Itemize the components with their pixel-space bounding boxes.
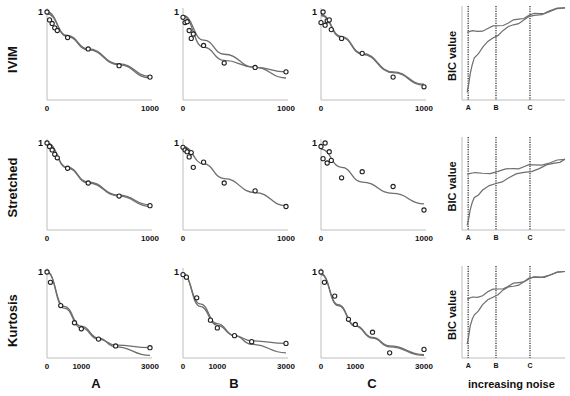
- data-point: [284, 204, 288, 208]
- y-tick-label: 1: [312, 267, 317, 277]
- panel-kurtosis-a: 1010003000: [38, 267, 159, 371]
- data-point: [66, 166, 70, 170]
- data-point: [222, 61, 226, 65]
- y-axis-label-bic: BIC value: [446, 31, 458, 81]
- fit-curve: [321, 15, 424, 85]
- x-tick-label: 1000: [208, 362, 226, 371]
- data-point: [79, 327, 83, 331]
- data-point: [250, 340, 254, 344]
- data-point: [321, 157, 325, 161]
- panel-stretched-a: 101000: [38, 138, 159, 243]
- data-point: [388, 351, 392, 355]
- figure: 1010001010001010001010001010001010001010…: [0, 0, 570, 396]
- x-tick-label: 3000: [415, 362, 433, 371]
- panel-kurtosis-b: 1010003000: [174, 267, 295, 371]
- data-point: [284, 70, 288, 74]
- data-point: [391, 75, 395, 79]
- y-tick-label: 1: [38, 267, 43, 277]
- x-tick-label: 0: [319, 362, 324, 371]
- data-point: [50, 21, 54, 25]
- data-point: [185, 20, 189, 24]
- noise-marker-label: A: [466, 362, 471, 369]
- plot-grid: 1010001010001010001010001010001010001010…: [0, 0, 570, 396]
- column-label-c: C: [352, 376, 392, 391]
- x-tick-label: 0: [181, 234, 186, 243]
- data-point: [117, 64, 121, 68]
- x-tick-label: 0: [45, 234, 50, 243]
- data-point: [184, 275, 188, 279]
- data-point: [391, 184, 395, 188]
- panel-stretched-c: 101000: [312, 138, 433, 243]
- panel-ivim-a: 101000: [38, 7, 159, 113]
- data-point: [66, 35, 70, 39]
- fit-curve: [321, 275, 424, 356]
- y-tick-label: 1: [312, 7, 317, 17]
- y-tick-label: 1: [312, 138, 317, 148]
- data-point: [319, 144, 323, 148]
- data-point: [181, 15, 185, 19]
- data-point: [189, 150, 193, 154]
- data-point: [45, 10, 49, 14]
- noise-marker-label: A: [466, 234, 471, 241]
- panel-ivim-bic: BIC valueABC: [446, 6, 565, 111]
- data-point: [195, 296, 199, 300]
- data-point: [422, 208, 426, 212]
- fit-curve: [321, 16, 424, 86]
- x-tick-label: 3000: [277, 362, 295, 371]
- panel-ivim-c: 101000: [312, 7, 433, 113]
- data-point: [329, 158, 333, 162]
- data-point: [353, 322, 357, 326]
- noise-marker-label: A: [466, 104, 471, 111]
- fit-curve: [183, 16, 286, 78]
- data-point: [208, 318, 212, 322]
- data-point: [232, 334, 236, 338]
- x-tick-label: 0: [45, 362, 50, 371]
- data-point: [148, 204, 152, 208]
- x-tick-label: 0: [45, 104, 50, 113]
- x-tick-label: 1000: [72, 362, 90, 371]
- data-point: [189, 36, 193, 40]
- row-label-kurtosis: Kurtosis: [5, 281, 20, 361]
- data-point: [72, 321, 76, 325]
- x-tick-label: 0: [181, 104, 186, 113]
- x-tick-label: 0: [319, 104, 324, 113]
- data-point: [360, 51, 364, 55]
- x-tick-label: 0: [319, 234, 324, 243]
- data-point: [59, 303, 63, 307]
- x-tick-label: 1000: [141, 104, 159, 113]
- data-point: [114, 344, 118, 348]
- data-point: [360, 170, 364, 174]
- x-tick-label: 1000: [141, 234, 159, 243]
- fit-curve: [47, 14, 150, 76]
- data-point: [321, 10, 325, 14]
- panel-kurtosis-bic: BIC valueABC: [446, 266, 565, 369]
- data-point: [329, 28, 333, 32]
- panel-stretched-bic: BIC valueABC: [446, 137, 565, 241]
- y-tick-label: 1: [174, 267, 179, 277]
- data-point: [148, 75, 152, 79]
- fit-curve: [183, 275, 286, 353]
- x-axis-label-increasing-noise: increasing noise: [468, 378, 555, 390]
- data-point: [319, 270, 323, 274]
- data-point: [86, 47, 90, 51]
- data-point: [327, 150, 331, 154]
- fit-curve: [183, 274, 286, 344]
- x-tick-label: 1000: [415, 104, 433, 113]
- x-tick-label: 1000: [415, 234, 433, 243]
- data-point: [325, 161, 329, 165]
- data-point: [422, 347, 426, 351]
- data-point: [323, 141, 327, 145]
- data-point: [346, 317, 350, 321]
- column-label-b: B: [214, 376, 254, 391]
- y-tick-label: 1: [174, 138, 179, 148]
- noise-marker-label: B: [493, 234, 498, 241]
- data-point: [422, 85, 426, 89]
- bic-series-line: [467, 159, 565, 174]
- data-point: [340, 36, 344, 40]
- x-tick-label: 3000: [141, 362, 159, 371]
- data-point: [45, 270, 49, 274]
- data-point: [333, 294, 337, 298]
- data-point: [96, 337, 100, 341]
- panel-ivim-b: 101000: [174, 7, 295, 113]
- data-point: [253, 65, 257, 69]
